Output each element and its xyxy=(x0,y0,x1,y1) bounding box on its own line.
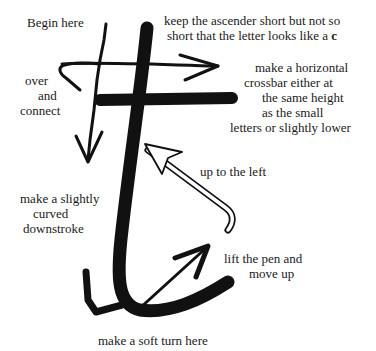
label-lift-pen-line2: move up xyxy=(224,266,302,281)
label-over: over xyxy=(20,73,60,88)
label-crossbar-line3: the same height xyxy=(243,90,351,105)
label-keep-ascender-line1: keep the ascender short but not so xyxy=(164,13,340,28)
label-connect: connect xyxy=(20,103,60,118)
label-lift-pen-line1: lift the pen and xyxy=(224,251,302,266)
label-keep-ascender: keep the ascender short but not so short… xyxy=(164,13,340,43)
label-curved-downstroke-line1: make a slightly xyxy=(20,191,99,206)
label-curved-downstroke-line2: curved xyxy=(20,206,99,221)
label-crossbar-line4: as the small xyxy=(243,105,351,120)
over-and-connect-loop xyxy=(60,63,100,90)
label-keep-ascender-line2: short that the letter looks like a c xyxy=(164,28,340,43)
label-curved-downstroke-line3: downstroke xyxy=(20,221,99,236)
strokes-canvas xyxy=(0,0,376,351)
label-crossbar-line5: letters or slightly lower xyxy=(230,120,351,135)
label-keep-ascender-line2-text: short that the letter looks like a xyxy=(167,28,331,43)
label-soft-turn: make a soft turn here xyxy=(98,333,208,348)
right-arrowhead-icon xyxy=(180,55,218,80)
label-crossbar-line1: make a horizontal xyxy=(243,60,351,75)
label-and: and xyxy=(20,88,60,103)
label-over-and-connect: over and connect xyxy=(20,73,60,118)
label-crossbar: make a horizontal crossbar either at the… xyxy=(243,60,351,135)
label-lift-pen: lift the pen and move up xyxy=(224,251,302,281)
label-up-to-left: up to the left xyxy=(200,164,266,179)
label-curved-downstroke: make a slightly curved downstroke xyxy=(20,191,99,236)
letter-t-instruction-diagram: Begin here keep the ascender short but n… xyxy=(0,0,376,351)
label-keep-ascender-emphasis: c xyxy=(331,28,337,43)
crossbar-stroke xyxy=(100,98,232,100)
label-crossbar-line2: crossbar either at xyxy=(243,75,351,90)
label-begin-here: Begin here xyxy=(27,15,84,30)
